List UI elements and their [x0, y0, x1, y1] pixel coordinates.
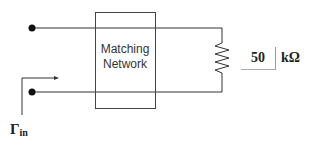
arrow-head-icon: [54, 76, 59, 80]
gamma-arrow: [22, 78, 55, 115]
top-terminal: [29, 25, 36, 32]
resistor-icon: [215, 28, 229, 92]
circuit-diagram: [0, 0, 315, 147]
label-line-2: Network: [96, 57, 154, 72]
gamma-symbol: Γ: [10, 121, 20, 137]
gamma-in-label: Γin: [10, 121, 28, 138]
gamma-subscript: in: [20, 127, 28, 138]
load-value-input[interactable]: [241, 47, 276, 70]
bottom-terminal: [29, 89, 36, 96]
label-line-1: Matching: [96, 42, 154, 57]
matching-network-label: Matching Network: [96, 42, 154, 72]
load-unit: kΩ: [281, 50, 300, 66]
